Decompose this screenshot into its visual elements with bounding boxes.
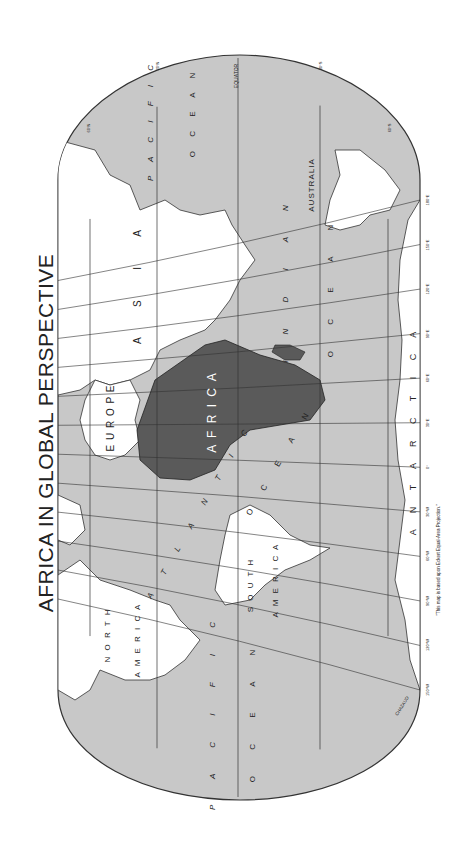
label-antarctica: A N T A R C T I C A	[408, 325, 418, 535]
label-asia: A S I A	[132, 216, 143, 344]
label-indian: I N D I A N	[281, 193, 290, 363]
label-europe: E U R O P E	[105, 385, 116, 452]
lat-label-30s: 30°S	[318, 62, 323, 71]
lon-label: 30°E	[425, 418, 430, 427]
label-pacific-bottom-ocean: O C E A N	[248, 638, 257, 782]
label-south-america-1: S O U T H	[246, 558, 255, 613]
lon-label: 90°W	[425, 596, 430, 606]
lon-label: 90°E	[425, 329, 430, 338]
label-north-america-1: N O R T H	[103, 607, 112, 662]
label-north-america-2: A M E R I C A	[133, 603, 142, 678]
lat-label-60n: 60°N	[86, 124, 91, 133]
label-australia: AUSTRALIA	[307, 158, 316, 211]
lat-label-equator: EQUATOR	[233, 64, 239, 88]
lat-label-60s: 60°S	[387, 124, 392, 133]
lon-label: 120°E	[425, 284, 430, 295]
projection-footnote: "This map is based upon Eckert Equal-Are…	[436, 504, 441, 615]
lon-label: 0°	[425, 465, 430, 469]
lat-label-30n: 30°N	[155, 62, 160, 71]
lon-label: 60°E	[425, 374, 430, 383]
label-africa: A F R I C A	[205, 371, 219, 452]
label-pacific-top-ocean: O C E A N	[188, 67, 197, 157]
world-map	[0, 0, 466, 865]
lon-label: 30°W	[425, 507, 430, 517]
lon-label: 150°W	[425, 684, 430, 696]
lon-label: 60°W	[425, 551, 430, 561]
label-south-america-2: A M E R I C A	[271, 543, 280, 618]
label-indian-ocean: O C E A N	[326, 213, 335, 357]
map-title: AFRICA IN GLOBAL PERSPECTIVE	[34, 254, 58, 613]
label-pacific-top: P A C I F I C	[146, 59, 155, 181]
lon-label: 150°E	[425, 239, 430, 250]
lon-label: 120°W	[425, 639, 430, 651]
label-pacific-bottom: P A C I F I C	[208, 610, 217, 810]
lon-label: 180°E	[425, 195, 430, 206]
